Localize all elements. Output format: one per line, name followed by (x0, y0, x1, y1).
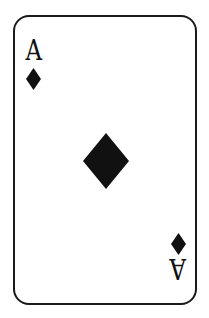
corner-rank-bottom-right: A (169, 255, 186, 282)
playing-card-ace-of-diamonds[interactable]: A A (13, 15, 197, 305)
diamond-icon (26, 68, 41, 90)
corner-rank-top-left: A (25, 37, 42, 64)
playing-card-scene: A A (0, 0, 209, 318)
diamond-icon (83, 133, 129, 189)
diamond-icon (171, 233, 186, 255)
